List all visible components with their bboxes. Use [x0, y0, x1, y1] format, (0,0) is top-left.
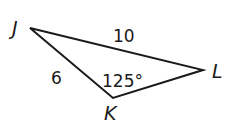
angle-label-k: 125° — [102, 71, 143, 91]
side-label-jk: 6 — [51, 68, 62, 88]
vertex-label-j: J — [8, 17, 18, 39]
vertex-label-l: L — [212, 60, 223, 82]
triangle-diagram: J L K 10 6 125° — [0, 0, 229, 132]
vertex-label-k: K — [104, 102, 118, 124]
side-label-jl: 10 — [113, 26, 135, 46]
